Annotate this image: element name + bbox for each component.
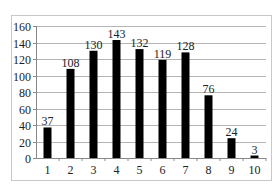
data-label: 3	[252, 143, 258, 157]
data-label: 24	[226, 125, 238, 139]
y-tick-label: 40	[19, 119, 31, 133]
bar	[136, 49, 144, 158]
bar	[182, 52, 190, 158]
data-label: 119	[154, 47, 172, 61]
data-label: 108	[62, 56, 80, 70]
y-tick-label: 0	[25, 152, 31, 166]
x-tick-label: 4	[114, 163, 120, 177]
y-tick-label: 100	[13, 70, 31, 84]
y-tick-label: 160	[13, 20, 31, 34]
y-tick-label: 140	[13, 37, 31, 51]
x-tick-label: 3	[91, 163, 97, 177]
x-tick-label: 2	[68, 163, 74, 177]
data-label: 130	[85, 38, 103, 52]
y-tick-label: 120	[13, 53, 31, 67]
data-label: 143	[108, 27, 126, 41]
x-tick-label: 10	[249, 163, 261, 177]
y-axis: 020406080100120140160	[13, 20, 37, 166]
data-label: 128	[177, 39, 195, 53]
data-label: 132	[131, 36, 149, 50]
bar	[228, 138, 236, 158]
bar	[90, 51, 98, 158]
bar	[44, 127, 52, 158]
x-tick-label: 9	[229, 163, 235, 177]
y-tick-label: 80	[19, 86, 31, 100]
x-tick-label: 5	[137, 163, 143, 177]
x-tick-label: 6	[160, 163, 166, 177]
x-tick-label: 8	[206, 163, 212, 177]
data-label: 37	[42, 114, 54, 128]
bar	[205, 95, 213, 158]
bar	[113, 40, 121, 158]
x-axis: 12345678910	[36, 158, 266, 177]
x-tick-label: 7	[183, 163, 189, 177]
y-tick-label: 60	[19, 103, 31, 117]
bar-chart: 020406080100120140160 371081301431321191…	[0, 0, 275, 189]
x-tick-label: 1	[45, 163, 51, 177]
data-label: 76	[203, 82, 215, 96]
bar	[159, 60, 167, 158]
bar	[67, 69, 75, 158]
y-tick-label: 20	[19, 136, 31, 150]
